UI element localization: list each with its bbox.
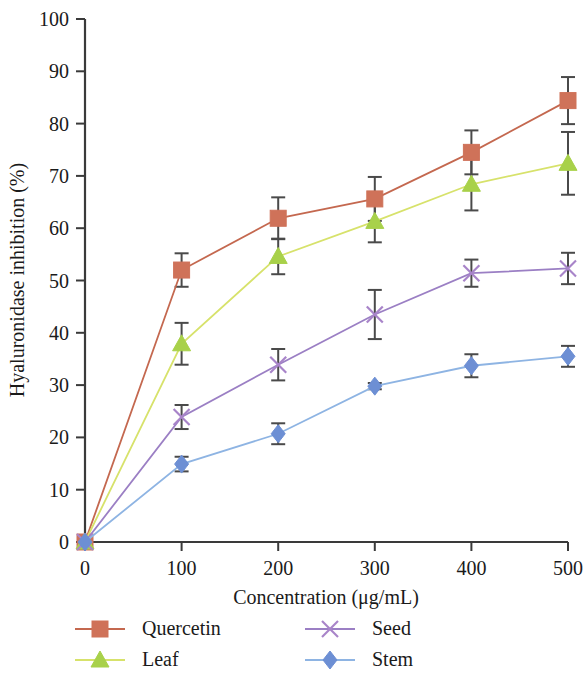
- data-point: [560, 93, 576, 109]
- legend-item-stem[interactable]: Stem: [305, 648, 414, 670]
- data-point: [368, 377, 382, 395]
- data-point: [269, 247, 287, 263]
- data-point: [561, 347, 575, 365]
- x-axis: 0100200300400500: [80, 542, 583, 579]
- data-point: [174, 262, 190, 278]
- legend-marker-icon: [91, 651, 109, 667]
- y-tick-label: 90: [49, 60, 69, 82]
- x-axis-ticks: 0100200300400500: [80, 542, 583, 579]
- series-line: [85, 268, 568, 542]
- data-point: [367, 191, 383, 207]
- y-axis-ticks: 0102030405060708090100: [39, 8, 85, 553]
- y-axis-title: Hyaluronidase inhibition (%): [6, 163, 29, 397]
- x-tick-label: 400: [456, 557, 486, 579]
- legend-marker-icon: [92, 621, 108, 637]
- y-axis: 0102030405060708090100: [39, 8, 85, 553]
- legend-item-leaf[interactable]: Leaf: [75, 648, 179, 670]
- error-bars-quercetin: [175, 77, 575, 287]
- x-tick-label: 100: [167, 557, 197, 579]
- legend-item-seed[interactable]: Seed: [305, 617, 411, 639]
- chart-legend: QuercetinSeedLeafStem: [75, 617, 414, 670]
- y-tick-label: 0: [59, 531, 69, 553]
- data-point: [464, 357, 478, 375]
- error-bars-seed: [175, 253, 575, 429]
- legend-item-quercetin[interactable]: Quercetin: [75, 617, 221, 639]
- chart-figure: 0102030405060708090100 0100200300400500 …: [0, 0, 584, 674]
- data-point: [271, 425, 285, 443]
- legend-marker-icon: [323, 651, 337, 669]
- x-tick-label: 300: [360, 557, 390, 579]
- data-point: [270, 210, 286, 226]
- y-tick-label: 80: [49, 113, 69, 135]
- legend-label: Stem: [372, 648, 414, 670]
- data-point: [463, 144, 479, 160]
- series-line: [85, 163, 568, 542]
- series-quercetin: [77, 93, 576, 550]
- series-stem: [78, 347, 575, 551]
- y-tick-label: 70: [49, 165, 69, 187]
- data-point: [175, 455, 189, 473]
- y-tick-label: 60: [49, 217, 69, 239]
- y-tick-label: 40: [49, 322, 69, 344]
- y-tick-label: 10: [49, 479, 69, 501]
- series-line: [85, 101, 568, 542]
- y-tick-label: 20: [49, 426, 69, 448]
- y-tick-label: 100: [39, 8, 69, 30]
- hyaluronidase-inhibition-line-chart: 0102030405060708090100 0100200300400500 …: [0, 0, 584, 674]
- legend-label: Leaf: [142, 648, 179, 670]
- series-leaf: [76, 154, 577, 549]
- y-tick-label: 50: [49, 270, 69, 292]
- data-point: [559, 154, 577, 170]
- legend-label: Quercetin: [142, 617, 221, 639]
- legend-label: Seed: [372, 617, 411, 639]
- x-tick-label: 0: [80, 557, 90, 579]
- y-tick-label: 30: [49, 374, 69, 396]
- x-tick-label: 200: [263, 557, 293, 579]
- x-axis-title: Concentration (μg/mL): [233, 586, 419, 609]
- error-bars-stem: [175, 346, 575, 472]
- data-series-group: [76, 77, 577, 551]
- x-tick-label: 500: [553, 557, 583, 579]
